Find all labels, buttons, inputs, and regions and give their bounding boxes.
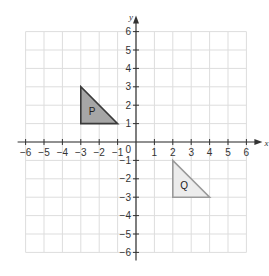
y-tick-label: 5 [125, 45, 131, 56]
x-tick-label: −5 [38, 147, 50, 158]
y-tick-label: 4 [125, 63, 131, 74]
x-tick-label: 5 [225, 147, 231, 158]
y-tick-label: −4 [120, 210, 132, 221]
y-tick-label: 6 [125, 26, 131, 37]
y-axis-label: y [128, 12, 133, 22]
x-tick-label: 6 [244, 147, 250, 158]
x-tick-label: 4 [207, 147, 213, 158]
x-tick-label: 3 [188, 147, 194, 158]
y-tick-label: −1 [120, 155, 132, 166]
x-tick-label: 1 [152, 147, 158, 158]
y-tick-label: 3 [125, 81, 131, 92]
x-arrow-icon [254, 139, 262, 145]
x-tick-label: −6 [20, 147, 32, 158]
y-tick-label: −2 [120, 173, 132, 184]
y-tick-label: 2 [125, 100, 131, 111]
shape-label: Q [180, 180, 188, 191]
coordinate-grid: PQxy−6−5−4−3−2−1123456654321−1−2−3−4−5−6… [0, 0, 269, 276]
shape-label: P [89, 106, 96, 117]
x-tick-label: −3 [75, 147, 87, 158]
origin-label: 0 [125, 144, 131, 155]
x-tick-label: −2 [93, 147, 105, 158]
x-axis-label: x [263, 138, 268, 148]
x-tick-label: −4 [57, 147, 69, 158]
y-tick-label: −6 [120, 247, 132, 258]
y-arrow-icon [133, 16, 139, 24]
y-tick-label: −3 [120, 192, 132, 203]
y-tick-label: 1 [125, 118, 131, 129]
x-tick-label: 2 [170, 147, 176, 158]
y-tick-label: −5 [120, 229, 132, 240]
